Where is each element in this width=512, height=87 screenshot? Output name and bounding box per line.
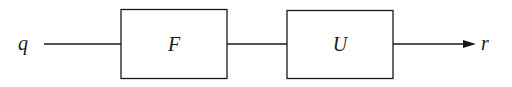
output-label: r (481, 32, 489, 54)
block-diagram: q F U r (0, 0, 512, 87)
block-u: U (287, 11, 393, 79)
block-u-label: U (333, 33, 349, 55)
block-f-label: F (167, 33, 181, 55)
input-label: q (18, 32, 28, 55)
block-f: F (121, 10, 227, 79)
arrowhead-icon (463, 40, 476, 48)
